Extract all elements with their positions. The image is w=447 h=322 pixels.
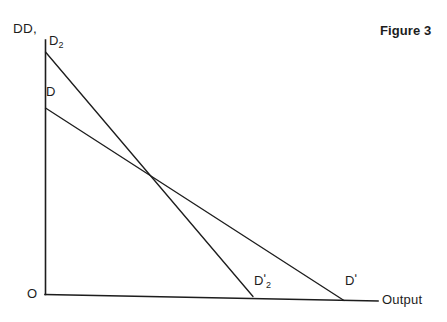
prime-mark-icon: ʹ (355, 271, 357, 286)
canvas-background (0, 0, 447, 322)
figure-title: Figure 3 (380, 24, 431, 37)
curve-label-d: D (46, 85, 56, 98)
curve-label-d-prime-2-text: D (254, 273, 264, 288)
figure-container: DD, D2 D O Dʹ2 Dʹ Output Figure 3 (0, 0, 447, 322)
curve-label-d-prime: Dʹ (345, 274, 357, 287)
demand-curve-diagram (0, 0, 447, 322)
curve-label-d-prime-text: D (345, 273, 355, 288)
y-axis-label: DD, (13, 22, 37, 36)
curve-label-d2-text: D (49, 33, 59, 48)
curve-label-d-prime-2-subscript: 2 (266, 280, 271, 290)
curve-label-d2: D2 (49, 34, 64, 47)
curve-label-d-prime-2: Dʹ2 (254, 274, 271, 287)
x-axis-label: Output (382, 293, 422, 306)
origin-label: O (27, 287, 37, 300)
curve-label-d2-subscript: 2 (59, 40, 64, 50)
